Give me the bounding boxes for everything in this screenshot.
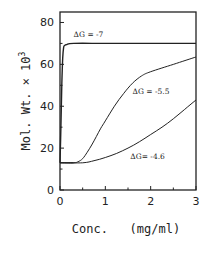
chart: 020406080 0123 ΔG = -7ΔG = -5.5ΔG= -4.6 … — [0, 0, 207, 254]
series-annotation: ΔG = -7 — [74, 30, 104, 39]
y-axis-exponent: 3 — [18, 51, 27, 56]
series-line-1 — [60, 57, 196, 163]
series-line-2 — [60, 100, 196, 163]
y-tick-label: 80 — [40, 16, 54, 29]
y-tick-label: 0 — [47, 184, 54, 197]
series-annotation: ΔG= -4.6 — [130, 152, 165, 161]
series-lines — [60, 43, 196, 163]
y-tick-label: 60 — [40, 58, 54, 71]
series-annotation: ΔG = -5.5 — [133, 87, 170, 96]
x-axis: 0123 — [57, 186, 200, 208]
y-tick-label: 40 — [40, 100, 54, 113]
x-axis-title: Conc. (mg/ml) — [72, 222, 180, 236]
series-line-0 — [60, 43, 196, 162]
x-tick-label: 2 — [147, 195, 154, 208]
x-tick-label: 0 — [57, 195, 64, 208]
y-tick-label: 20 — [40, 142, 54, 155]
x-tick-label: 3 — [193, 195, 200, 208]
x-tick-label: 1 — [102, 195, 109, 208]
y-axis-title: Mol. Wt. × 103 — [18, 51, 33, 150]
